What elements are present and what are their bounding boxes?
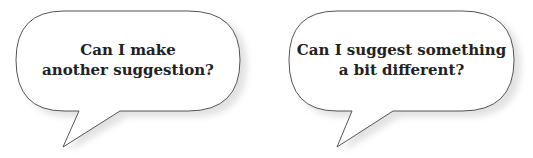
speech-bubble-1-line-2: another suggestion? bbox=[16, 60, 240, 80]
speech-bubble-2-line-2: a bit different? bbox=[289, 60, 514, 80]
speech-bubble-1-line-1: Can I make bbox=[16, 40, 240, 60]
speech-bubble-2-text: Can I suggest something a bit different? bbox=[289, 40, 514, 80]
speech-bubble-2-line-1: Can I suggest something bbox=[289, 40, 514, 60]
speech-bubble-1-text: Can I make another suggestion? bbox=[16, 40, 240, 80]
